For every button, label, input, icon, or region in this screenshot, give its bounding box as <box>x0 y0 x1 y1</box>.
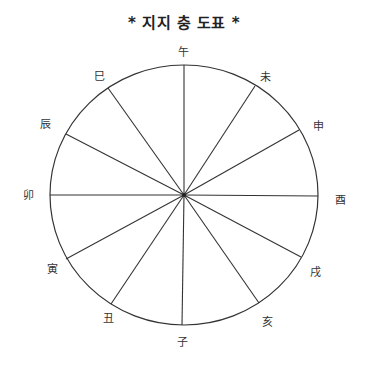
branch-label: 辰 <box>40 118 51 131</box>
spoke-line <box>184 130 299 195</box>
branch-label: 酉 <box>335 194 346 207</box>
branch-label: 戌 <box>310 266 321 279</box>
branch-label: 未 <box>260 71 271 84</box>
branch-label: 子 <box>177 336 188 349</box>
branch-label: 午 <box>178 46 189 59</box>
branch-label: 巳 <box>94 70 105 83</box>
branch-label: 亥 <box>262 315 273 329</box>
branch-label: 寅 <box>47 262 58 276</box>
spoke-line <box>184 195 318 196</box>
center-point <box>182 193 186 197</box>
spoke-line <box>66 134 184 195</box>
spoke-line <box>184 86 255 195</box>
spoke-line <box>184 195 259 303</box>
branch-label: 申 <box>313 120 324 133</box>
spoke-line <box>184 195 301 257</box>
branch-label: 丑 <box>103 312 114 325</box>
spoke-line <box>111 195 184 304</box>
spoke-line <box>66 195 184 259</box>
spoke-line <box>108 88 184 195</box>
branch-clash-wheel: 午未申酉戌亥子丑寅卯辰巳 <box>0 0 368 369</box>
branch-label: 卯 <box>23 189 34 202</box>
spoke-line <box>182 195 184 325</box>
